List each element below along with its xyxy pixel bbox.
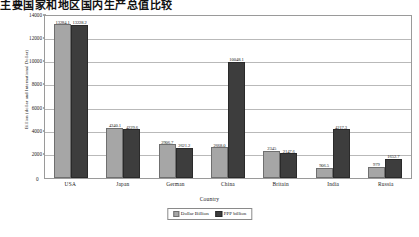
bar-group: 9791652.7 bbox=[359, 16, 411, 178]
y-tick-label: 10000 bbox=[29, 58, 42, 64]
bar[interactable]: 906.5 bbox=[316, 168, 333, 178]
bar[interactable]: 2906.7 bbox=[159, 144, 176, 178]
y-axis-ticks: 2000400060008000100001200014000 bbox=[18, 13, 44, 179]
x-axis-ticks: USAJapanGermanChinaBritainIndiaRussia bbox=[44, 181, 412, 187]
x-tick-label: Russia bbox=[359, 181, 412, 187]
legend-swatch-icon bbox=[216, 211, 223, 218]
x-tick-label: German bbox=[149, 181, 202, 187]
x-tick-label: India bbox=[307, 181, 360, 187]
bar-value-label: 1652.7 bbox=[387, 154, 399, 159]
legend-item-ppp-billion[interactable]: PPP billion bbox=[216, 211, 246, 218]
y-tick-label: 4000 bbox=[32, 128, 42, 134]
bar-chart-figure: Billion (dollar and International Dollar… bbox=[0, 13, 419, 237]
bar-value-label: 4229.6 bbox=[126, 125, 138, 130]
bar[interactable]: 2345 bbox=[263, 151, 280, 178]
page-heading-text: 主要国家和地区国内生产总值比较 bbox=[0, 0, 173, 11]
bar-value-label: 906.5 bbox=[319, 163, 329, 168]
bar[interactable]: 4217.3 bbox=[333, 129, 350, 178]
legend-swatch-icon bbox=[173, 211, 180, 218]
y-tick-label: 8000 bbox=[32, 81, 42, 87]
bar-value-label: 2621.2 bbox=[178, 143, 190, 148]
bar-value-label: 2668.0 bbox=[213, 143, 225, 148]
bar-value-label: 13284.1 bbox=[56, 20, 70, 25]
bar-group: 13284.113228.2 bbox=[45, 16, 97, 178]
x-tick-label: USA bbox=[44, 181, 97, 187]
x-tick-label: China bbox=[202, 181, 255, 187]
bar-group: 906.54217.3 bbox=[306, 16, 358, 178]
bar[interactable]: 13284.1 bbox=[54, 24, 71, 178]
bar-value-label: 4217.3 bbox=[335, 125, 347, 130]
bar[interactable]: 1652.7 bbox=[385, 159, 402, 178]
x-tick-label: Japan bbox=[97, 181, 150, 187]
y-tick-label: 12000 bbox=[29, 35, 42, 41]
bar-group: 2906.72621.2 bbox=[150, 16, 202, 178]
bar[interactable]: 13228.2 bbox=[71, 25, 88, 178]
legend-label: PPP billion bbox=[224, 211, 246, 216]
bar[interactable]: 4340.1 bbox=[106, 128, 123, 178]
plot-area: 13284.113228.24340.14229.62906.72621.226… bbox=[44, 15, 412, 179]
bar-value-label: 10048.1 bbox=[229, 57, 243, 62]
bar[interactable]: 10048.1 bbox=[228, 62, 245, 178]
y-tick-label: 14000 bbox=[29, 12, 42, 18]
bar-value-label: 2147.6 bbox=[283, 149, 295, 154]
bar-value-label: 2906.7 bbox=[161, 140, 173, 145]
bar[interactable]: 2147.6 bbox=[280, 153, 297, 178]
bar-value-label: 4340.1 bbox=[109, 123, 121, 128]
bar-group: 2668.010048.1 bbox=[202, 16, 254, 178]
bar[interactable]: 979 bbox=[368, 167, 385, 178]
bar-groups: 13284.113228.24340.14229.62906.72621.226… bbox=[45, 16, 411, 178]
chart-legend: Dollar Billion PPP billion bbox=[167, 208, 252, 220]
bar-value-label: 979 bbox=[373, 162, 380, 167]
y-axis-zero-label: 0 bbox=[36, 176, 39, 182]
legend-item-dollar-billion[interactable]: Dollar Billion bbox=[173, 211, 209, 218]
bar-value-label: 13228.2 bbox=[73, 20, 87, 25]
bar-value-label: 2345 bbox=[267, 146, 276, 151]
bar[interactable]: 2668.0 bbox=[211, 147, 228, 178]
x-axis-title: Country bbox=[0, 196, 419, 202]
bar-group: 23452147.6 bbox=[254, 16, 306, 178]
bar[interactable]: 2621.2 bbox=[176, 148, 193, 178]
page-heading: 主要国家和地区国内生产总值比较 bbox=[0, 0, 419, 12]
x-tick-label: Britain bbox=[254, 181, 307, 187]
legend-label: Dollar Billion bbox=[181, 211, 209, 216]
y-tick-label: 2000 bbox=[32, 151, 42, 157]
y-tick-label: 6000 bbox=[32, 105, 42, 111]
bar[interactable]: 4229.6 bbox=[123, 129, 140, 178]
bar-group: 4340.14229.6 bbox=[97, 16, 149, 178]
